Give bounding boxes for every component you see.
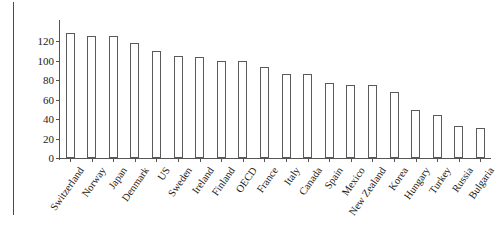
bar: [152, 51, 161, 158]
y-axis-tick-label: 20: [43, 133, 54, 144]
bar: [346, 85, 355, 158]
x-axis-tick-label: US: [156, 165, 173, 182]
x-axis-tick-label: Switzerland: [48, 165, 86, 212]
bar: [303, 74, 312, 158]
bar: [87, 36, 96, 158]
y-axis-tick-label: 60: [43, 94, 54, 105]
x-axis-tick: [286, 158, 287, 162]
y-axis-tick-label: 100: [38, 55, 55, 66]
bar: [174, 56, 183, 158]
y-axis-tick: [56, 80, 60, 81]
y-axis-tick: [56, 119, 60, 120]
bar: [368, 85, 377, 158]
bar: [130, 43, 139, 158]
bar: [325, 83, 334, 158]
x-axis-tick-label: France: [255, 165, 280, 195]
bar: [66, 33, 75, 158]
y-axis-tick-label: 80: [43, 75, 54, 86]
x-axis-tick: [329, 158, 330, 162]
bar: [411, 110, 420, 158]
x-axis-tick: [200, 158, 201, 162]
x-axis-tick-label: Italy: [282, 165, 302, 187]
x-axis-tick: [92, 158, 93, 162]
x-axis-tick: [394, 158, 395, 162]
x-axis-tick: [221, 158, 222, 162]
y-axis-tick-label: 0: [49, 153, 55, 164]
bar-chart-figure: 020406080100120 SwitzerlandNorwayJapanDe…: [0, 0, 502, 235]
bar: [454, 126, 463, 158]
x-axis-tick: [156, 158, 157, 162]
y-axis-tick: [56, 61, 60, 62]
bar: [476, 128, 485, 158]
page-margin-rule: [13, 2, 14, 215]
x-axis-line: [59, 158, 491, 159]
plot-area: [60, 22, 490, 158]
y-axis-tick-label: 120: [38, 36, 55, 47]
y-axis-tick: [56, 41, 60, 42]
bar: [217, 61, 226, 158]
y-axis-tick: [56, 139, 60, 140]
x-axis-tick: [459, 158, 460, 162]
bar: [195, 57, 204, 158]
x-axis-tick: [437, 158, 438, 162]
x-axis-tick: [416, 158, 417, 162]
bar: [238, 61, 247, 158]
x-axis-tick: [243, 158, 244, 162]
x-axis-tick: [135, 158, 136, 162]
bar: [109, 36, 118, 158]
bar: [433, 115, 442, 158]
x-axis-tick: [351, 158, 352, 162]
bar: [390, 92, 399, 158]
bar: [260, 67, 269, 158]
x-axis-tick: [113, 158, 114, 162]
x-axis-tick: [178, 158, 179, 162]
y-axis-tick: [56, 100, 60, 101]
x-axis-tick: [480, 158, 481, 162]
y-axis-tick: [56, 158, 60, 159]
y-axis-tick-labels: 020406080100120: [32, 22, 54, 158]
x-axis-tick: [264, 158, 265, 162]
x-axis-tick: [70, 158, 71, 162]
x-axis-tick: [308, 158, 309, 162]
x-axis-tick-label: OECD: [233, 165, 258, 195]
x-axis-tick: [372, 158, 373, 162]
bar: [282, 74, 291, 158]
y-axis-tick-label: 40: [43, 114, 54, 125]
